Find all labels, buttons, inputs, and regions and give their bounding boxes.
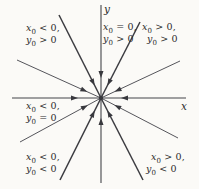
arrowhead-toward-origin (107, 110, 112, 117)
math-relation: < 0 (159, 163, 177, 174)
arrowhead-toward-origin (80, 105, 87, 111)
steep-ray-lower-right (101, 98, 143, 180)
shallow-ray-upper-left (17, 60, 101, 98)
region-label-top-right: x0> 0, y0> 0 (142, 21, 178, 44)
region-label-mid-left: x0< 0, y0= 0 (26, 100, 60, 123)
math-relation: > 0 (160, 33, 178, 44)
label-line: y0> 0 (142, 33, 178, 45)
arrowhead-toward-origin (89, 111, 94, 118)
math-sub: 0 (153, 38, 158, 46)
math-relation: < 0, (39, 100, 60, 111)
label-line: y0> 0 (26, 34, 60, 46)
math-relation: > 0, (155, 21, 176, 32)
math-relation: < 0 (39, 163, 57, 174)
label-line: y0< 0 (146, 163, 185, 175)
arrowhead-toward-origin (115, 86, 122, 91)
label-line: x0> 0, (142, 21, 178, 33)
label-line: y0< 0 (26, 163, 60, 175)
math-relation: = 0, (116, 21, 137, 32)
math-sub: 0 (109, 38, 114, 46)
label-line: x0< 0, (26, 22, 60, 34)
steep-ray-upper-left (59, 15, 101, 98)
region-label-bottom-right: x0> 0, y0< 0 (146, 151, 185, 174)
arrowhead-toward-origin (121, 96, 128, 101)
origin-equilibrium-dot (99, 96, 103, 100)
math-relation: = 0 (39, 112, 57, 123)
math-relation: > 0 (39, 34, 57, 45)
region-label-bottom-left: x0< 0, y0< 0 (26, 151, 60, 174)
arrowhead-toward-origin (107, 78, 112, 85)
math-relation: < 0, (39, 151, 60, 162)
math-sub: 0 (32, 168, 37, 176)
region-label-top-center: x0= 0, y0> 0 (103, 21, 137, 44)
phase-portrait-figure: y x x0< 0, y0> 0 x0= 0, y0> 0 x0> 0, y0>… (0, 0, 199, 189)
arrowhead-toward-origin (99, 71, 104, 78)
arrowhead-toward-origin (114, 105, 121, 110)
math-sub: 0 (32, 39, 37, 47)
label-line: x0= 0, (103, 21, 137, 33)
x-axis-label: x (181, 101, 187, 111)
math-relation: < 0, (39, 22, 60, 33)
math-sub: 0 (32, 117, 37, 125)
label-line: y0= 0 (26, 112, 60, 124)
label-line: x0> 0, (146, 151, 185, 163)
shallow-ray-lower-right (101, 98, 178, 138)
label-line: x0< 0, (26, 151, 60, 163)
math-sub: 0 (152, 168, 157, 176)
shallow-ray-upper-right (101, 61, 180, 98)
arrowhead-toward-origin (80, 87, 87, 92)
math-relation: > 0, (164, 151, 185, 162)
steep-ray-lower-left (60, 98, 101, 180)
label-line: x0< 0, (26, 100, 60, 112)
arrowhead-toward-origin (99, 118, 104, 125)
region-label-top-left: x0< 0, y0> 0 (26, 22, 60, 45)
math-relation: > 0 (116, 33, 134, 44)
label-line: y0> 0 (103, 33, 137, 45)
arrowhead-toward-origin (89, 78, 94, 85)
arrowhead-toward-origin (71, 96, 78, 101)
y-axis-label: y (104, 4, 110, 14)
